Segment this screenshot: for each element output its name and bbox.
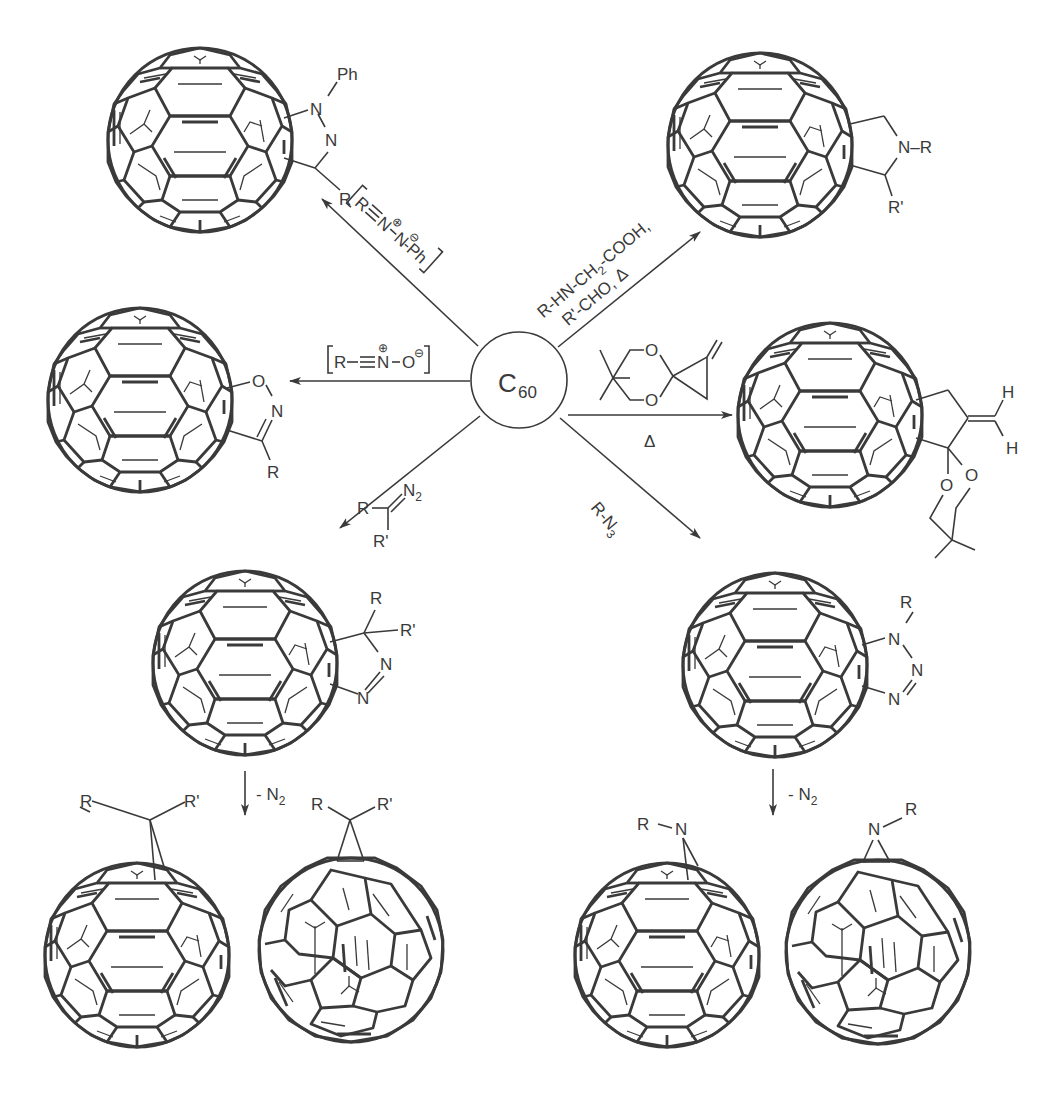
svg-text:N: N bbox=[888, 630, 900, 649]
svg-text:N: N bbox=[675, 820, 687, 839]
svg-text:N: N bbox=[310, 100, 322, 119]
product-triazoline: R N N N bbox=[683, 573, 923, 757]
reagent-azomethine-ylide: R-HN-CH2-COOH, R'-CHO, Δ bbox=[534, 217, 668, 339]
product-pyrazoline-diazo: R R' N N bbox=[153, 571, 416, 755]
c60-center-node: C 60 bbox=[471, 332, 567, 428]
svg-text:O: O bbox=[965, 466, 978, 485]
svg-text:Ph: Ph bbox=[337, 65, 358, 84]
svg-text:R: R bbox=[311, 795, 323, 814]
svg-text:R: R bbox=[80, 792, 92, 811]
product-fulleroid: R R' bbox=[45, 792, 229, 1047]
product-azafulleroid: R N bbox=[575, 815, 759, 1047]
svg-text:N: N bbox=[377, 353, 389, 372]
reagent-nitrile-imine: R N ⊕ N ⊖ -Ph bbox=[346, 182, 442, 272]
product-methanofullerene: R R' bbox=[259, 795, 443, 1042]
svg-text:R': R' bbox=[400, 621, 416, 640]
svg-text:R: R bbox=[905, 800, 917, 819]
svg-text:R: R bbox=[267, 463, 279, 482]
svg-text:R: R bbox=[339, 190, 351, 209]
c60-subscript: 60 bbox=[518, 383, 537, 402]
product-aziridinofullerene: R N bbox=[786, 800, 970, 1044]
svg-text:R: R bbox=[351, 193, 373, 215]
product-pyrazoline-nitrile-imine: Ph N N R bbox=[108, 48, 358, 232]
arrow-lower-right bbox=[560, 418, 700, 538]
product-pyrrolidine: N–R R' bbox=[668, 53, 932, 237]
svg-text:R: R bbox=[334, 353, 346, 372]
svg-text:N2: N2 bbox=[403, 481, 422, 504]
svg-text:R': R' bbox=[888, 198, 904, 217]
svg-text:R': R' bbox=[184, 792, 200, 811]
svg-text:- N2: - N2 bbox=[788, 785, 818, 808]
svg-text:N: N bbox=[271, 402, 283, 421]
svg-text:N: N bbox=[868, 820, 880, 839]
product-isoxazoline: O N R bbox=[48, 308, 283, 492]
svg-text:O: O bbox=[645, 391, 658, 410]
svg-text:N: N bbox=[911, 661, 923, 680]
reagent-nitrile-oxide: R N ⊕ O ⊖ bbox=[328, 341, 429, 373]
svg-text:N: N bbox=[380, 655, 392, 674]
svg-text:R: R bbox=[637, 815, 649, 834]
svg-text:N: N bbox=[325, 131, 337, 150]
svg-text:N: N bbox=[357, 689, 369, 708]
product-methylenecyclopentane: H H O O bbox=[738, 323, 1018, 558]
svg-text:O: O bbox=[252, 372, 265, 391]
svg-text:N: N bbox=[888, 690, 900, 709]
svg-text:O: O bbox=[645, 341, 658, 360]
condition-minus-n2-right: - N2 bbox=[788, 785, 818, 808]
svg-text:R-N3: R-N3 bbox=[584, 498, 626, 541]
reagent-azide: R-N3 bbox=[584, 498, 626, 541]
svg-text:⊕: ⊕ bbox=[378, 341, 388, 355]
svg-text:H: H bbox=[1006, 439, 1018, 458]
svg-text:R: R bbox=[357, 499, 369, 518]
svg-text:R: R bbox=[370, 589, 382, 608]
svg-text:O: O bbox=[940, 476, 953, 495]
svg-text:H: H bbox=[1002, 383, 1014, 402]
reagent-tmm-precursor: O O Δ bbox=[600, 340, 722, 451]
svg-text:N–R: N–R bbox=[898, 138, 932, 157]
c60-label: C bbox=[498, 368, 517, 398]
svg-text:- N2: - N2 bbox=[256, 785, 286, 808]
svg-text:R: R bbox=[900, 593, 912, 612]
reagent-diazo: R N2 R' bbox=[357, 481, 422, 551]
condition-minus-n2-left: - N2 bbox=[256, 785, 286, 808]
svg-text:⊖: ⊖ bbox=[414, 346, 424, 360]
svg-text:R': R' bbox=[373, 532, 389, 551]
svg-text:R': R' bbox=[377, 795, 393, 814]
reaction-scheme: C 60 R N ⊕ N ⊖ -Ph R-HN-CH2-COOH, R'-CHO… bbox=[0, 0, 1063, 1093]
svg-text:Δ: Δ bbox=[644, 432, 655, 451]
